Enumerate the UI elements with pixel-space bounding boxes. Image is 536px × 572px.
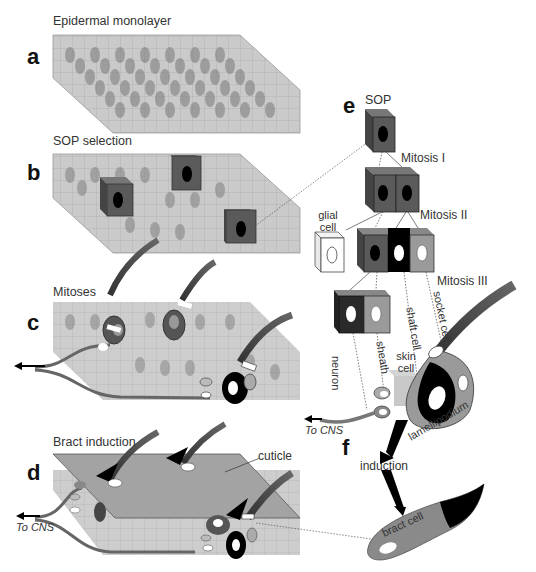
skin-label-line1: skin [393,350,419,362]
induction-label: induction [360,459,408,473]
panel-letter-e: e [343,93,355,119]
epidermal-sheet-c [14,240,300,404]
to-cns-label-e: To CNS [305,424,343,436]
panel-letter-a: a [27,44,39,70]
sop-label: SOP [365,93,391,107]
sop-cube-1 [100,177,133,216]
skin-cell-label: skin cell [393,350,419,374]
panel-letter-d: d [27,460,40,486]
panel-letter-f: f [342,435,349,461]
mitosis-1-label: Mitosis I [401,151,445,165]
neuron-label: neuron [330,356,342,390]
mitosis-3-label: Mitosis III [437,274,488,288]
epidermal-sheet-a [53,35,300,133]
panel-title-a: Epidermal monolayer [53,14,171,28]
sop-cube-3 [224,209,256,243]
panel-title-c: Mitoses [53,285,96,299]
panel-title-d: Bract induction [53,435,136,449]
to-cns-label-d: To CNS [16,521,54,533]
mitosis-2-label: Mitosis II [420,208,467,222]
sop-cube-2 [170,155,201,190]
glial-label-line1: glial [316,209,340,221]
panel-letter-c: c [27,310,39,336]
glial-label-line2: cell [316,221,340,233]
skin-label-line2: cell [393,362,419,374]
cuticle-label: cuticle [258,449,292,463]
panel-title-b: SOP selection [53,134,132,148]
panel-letter-b: b [27,160,40,186]
glial-cell-label: glial cell [316,209,340,233]
